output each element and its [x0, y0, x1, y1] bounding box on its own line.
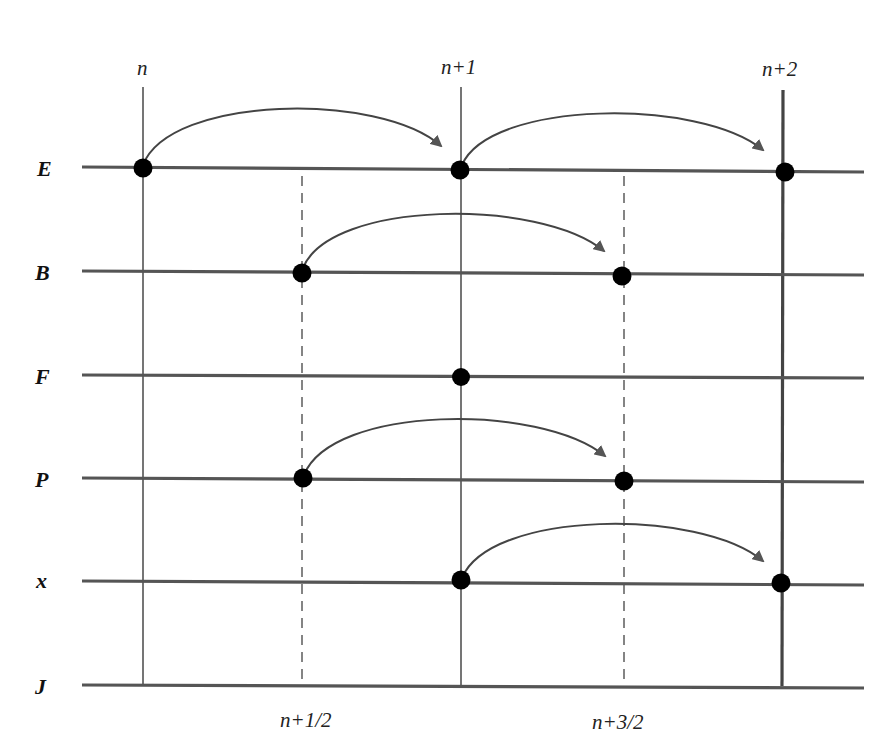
row-line-B	[82, 271, 864, 275]
arrow-E-n1-to-n2	[462, 113, 763, 165]
row-label-P: P	[34, 467, 49, 492]
row-line-F	[82, 375, 864, 378]
row-label-F: F	[34, 364, 50, 389]
row-label-E: E	[36, 156, 52, 181]
arrow-P-half-to-3half	[304, 419, 605, 475]
row-line-J	[82, 685, 864, 688]
time-label-n-plus-1: n+1	[441, 55, 476, 79]
row-label-x: x	[35, 568, 47, 593]
update-arrows	[143, 109, 763, 578]
node-P-half	[294, 469, 313, 488]
row-line-E	[82, 167, 864, 172]
node-E-n	[134, 159, 153, 178]
row-label-B: B	[34, 260, 50, 285]
quantity-rows	[82, 167, 864, 688]
node-x-n1	[452, 571, 471, 590]
node-B-3half	[613, 267, 632, 286]
time-label-n-plus-half: n+1/2	[280, 708, 332, 732]
node-E-n2	[776, 163, 795, 182]
node-P-3half	[615, 472, 634, 491]
node-x-n2	[772, 574, 791, 593]
time-label-n-plus-2: n+2	[762, 57, 798, 81]
arrow-x-n1-to-n2	[462, 524, 763, 578]
node-B-half	[293, 264, 312, 283]
arrow-B-half-to-3half	[303, 214, 604, 268]
row-line-x	[82, 581, 864, 585]
row-labels: E B F P x J	[34, 156, 52, 699]
node-F-n1	[452, 368, 470, 386]
row-line-P	[82, 478, 864, 482]
row-label-J: J	[34, 674, 47, 699]
time-label-n-plus-3-half: n+3/2	[592, 710, 644, 733]
leapfrog-time-step-diagram: E B F P x J n n+1 n+2 n+1/2 n+3/2	[0, 0, 892, 733]
time-label-n: n	[137, 56, 148, 80]
node-E-n1	[451, 161, 470, 180]
arrow-E-n-to-n1	[143, 109, 441, 165]
